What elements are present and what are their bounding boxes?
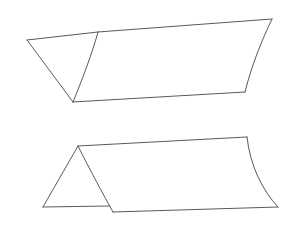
lower-folded-surface: [43, 137, 278, 212]
figure-canvas: Two folded ruled surface diagrams: [0, 0, 308, 233]
lower-main-face-fill: [78, 137, 278, 212]
